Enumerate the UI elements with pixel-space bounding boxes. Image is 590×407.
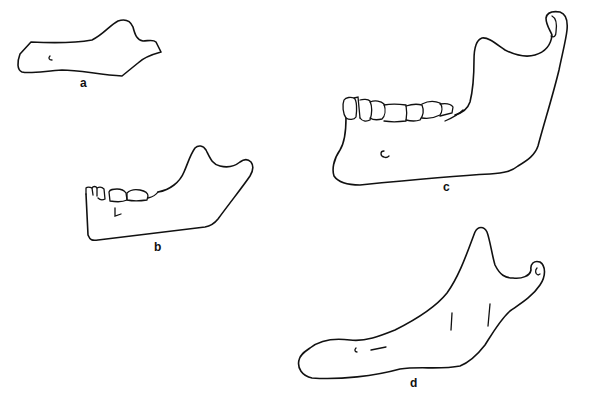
- panel-label-b: b: [154, 240, 161, 254]
- mandible-c: [333, 12, 567, 185]
- mandible-b: [86, 146, 253, 240]
- panel-label-c: c: [443, 180, 450, 194]
- mandible-figure: [0, 0, 590, 407]
- panel-label-a: a: [80, 76, 87, 90]
- panel-label-d: d: [410, 376, 417, 390]
- mandible-a: [18, 20, 161, 76]
- mandible-d: [299, 228, 545, 379]
